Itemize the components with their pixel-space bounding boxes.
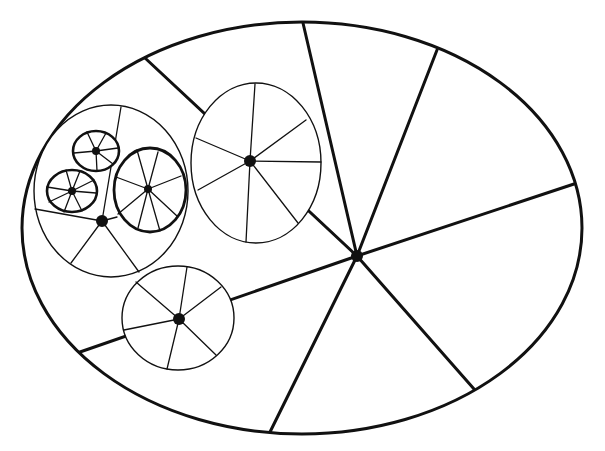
small-wheel-top-hub — [92, 147, 100, 155]
small-wheel-left-hub — [68, 187, 76, 195]
right-wheel-hub — [244, 155, 256, 167]
outer-spoke — [357, 184, 574, 256]
nested-wheels-diagram — [0, 0, 605, 451]
outer-spoke — [357, 256, 474, 389]
bottom-wheel-hub — [173, 313, 185, 325]
medium-ellipse-groups — [34, 83, 321, 370]
outer-hub — [351, 250, 363, 262]
right-wheel-fill — [191, 83, 321, 243]
medium-cluster-hub — [96, 215, 108, 227]
small-wheel-right-hub — [144, 185, 152, 193]
outer-spoke — [357, 50, 437, 256]
